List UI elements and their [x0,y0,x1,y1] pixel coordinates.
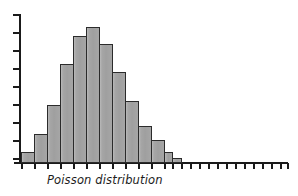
histogram-bar [151,140,165,163]
x-axis-tick [60,163,62,169]
y-axis-tick [13,122,21,124]
x-axis-tick [181,163,183,169]
y-axis-tick [13,50,21,52]
y-axis-tick [13,140,21,142]
x-axis-tick [47,163,49,169]
x-axis-tick [112,163,114,169]
x-axis-tick [280,163,282,169]
y-axis-tick [13,104,21,106]
y-axis-tick [13,32,21,34]
x-axis-tick [244,163,246,169]
x-axis-tick [262,163,264,169]
y-axis-tick [13,158,21,160]
histogram-bar [21,152,35,163]
x-axis-tick [151,163,153,169]
histogram-bar [47,105,61,163]
x-axis-tick [21,163,23,169]
histogram-bar [86,27,100,163]
histogram-bar [125,101,139,163]
histogram-bar [60,64,74,163]
x-axis-tick [235,163,237,169]
x-axis-tick [172,163,174,169]
x-axis-tick [86,163,88,169]
x-axis-tick [34,163,36,169]
y-axis-tick [13,14,21,16]
x-axis-tick [190,163,192,169]
y-axis-tick [13,86,21,88]
x-axis-tick [226,163,228,169]
histogram-bar [112,72,126,163]
x-axis-tick [271,163,273,169]
chart-caption: Poisson distribution [47,173,163,187]
poisson-histogram-figure: Poisson distribution [0,0,298,196]
x-axis-tick [99,163,101,169]
histogram-bar [99,44,113,163]
histogram-bar [73,36,87,163]
x-axis-tick [199,163,201,169]
x-axis-tick [287,163,289,169]
x-axis-tick [138,163,140,169]
plot-area [0,0,298,196]
x-axis-tick [73,163,75,169]
histogram-bar [34,134,48,163]
histogram-bar [172,158,182,163]
histogram-bar [138,126,152,163]
x-axis-tick [125,163,127,169]
x-axis-tick [208,163,210,169]
x-axis-tick [253,163,255,169]
x-axis-tick [164,163,166,169]
x-axis-tick [217,163,219,169]
y-axis-tick [13,68,21,70]
